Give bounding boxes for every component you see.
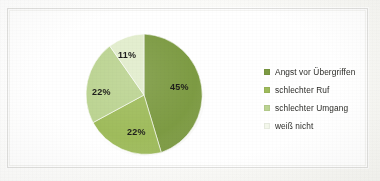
legend-item-weiss-nicht[interactable]: weiß nicht: [264, 117, 376, 135]
legend-swatch-icon: [264, 69, 270, 75]
chart-frame: 45% 22% 22% 11% Angst vor Übergriffen sc…: [7, 8, 368, 168]
legend-item-schlechter-ruf[interactable]: schlechter Ruf: [264, 81, 376, 99]
chart-legend: Angst vor Übergriffen schlechter Ruf sch…: [264, 63, 376, 135]
legend-item-schlechter-umgang[interactable]: schlechter Umgang: [264, 99, 376, 117]
legend-item-label: weiß nicht: [275, 121, 313, 131]
legend-swatch-icon: [264, 87, 270, 93]
pie-label-22-ruf: 22%: [127, 127, 146, 137]
legend-item-label: schlechter Ruf: [275, 85, 329, 95]
pie-label-11: 11%: [118, 50, 136, 60]
chart-screenshot: 45% 22% 22% 11% Angst vor Übergriffen sc…: [0, 0, 380, 181]
legend-item-angst-vor-uebergriffen[interactable]: Angst vor Übergriffen: [264, 63, 376, 81]
legend-swatch-icon: [264, 123, 270, 129]
legend-item-label: schlechter Umgang: [275, 103, 348, 113]
legend-swatch-icon: [264, 105, 270, 111]
pie-label-45: 45%: [170, 82, 189, 92]
pie-chart: 45% 22% 22% 11%: [82, 33, 206, 157]
pie-label-22-umgang: 22%: [92, 87, 111, 97]
legend-item-label: Angst vor Übergriffen: [275, 67, 355, 77]
